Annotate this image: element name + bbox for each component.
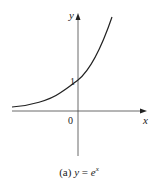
- y-axis-arrow-icon: [76, 13, 81, 20]
- y-axis-label: y: [68, 9, 74, 21]
- caption-equals: =: [79, 166, 91, 178]
- exp-curve: [12, 17, 112, 107]
- exp-graph: y x 0 1: [0, 0, 158, 185]
- figure-caption: (a) y = ex: [0, 165, 158, 178]
- y-intercept-label: 1: [70, 76, 75, 87]
- caption-prefix: (a): [59, 166, 74, 178]
- origin-label: 0: [68, 115, 73, 126]
- x-axis-arrow-icon: [140, 109, 147, 114]
- x-axis-label: x: [142, 114, 148, 126]
- caption-exponent: x: [96, 165, 99, 173]
